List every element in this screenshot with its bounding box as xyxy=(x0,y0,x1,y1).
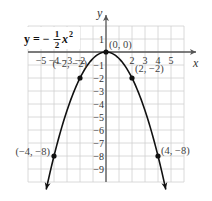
equation-numerator: 1 xyxy=(55,29,60,39)
x-axis-label: x xyxy=(192,56,199,70)
y-tick-label: −3 xyxy=(93,86,104,97)
y-tick-label: −5 xyxy=(93,112,104,123)
point-label: (0, 0) xyxy=(109,39,132,51)
y-tick-label: −6 xyxy=(93,125,104,136)
data-point xyxy=(129,75,134,80)
x-tick-label: 5 xyxy=(169,55,174,66)
x-tick-label: −5 xyxy=(36,55,47,66)
data-point xyxy=(51,153,56,158)
point-label: (−2, −2) xyxy=(52,58,87,70)
equation-lhs: y = − xyxy=(24,32,50,46)
x-tick-label: 2 xyxy=(130,55,135,66)
equation-denominator: 2 xyxy=(55,40,60,50)
curve-arrowheads xyxy=(45,182,167,189)
y-axis-label: y xyxy=(96,6,103,20)
data-point xyxy=(103,49,108,54)
y-tick-label: 1 xyxy=(99,34,104,45)
y-tick-label: −9 xyxy=(93,164,104,175)
point-label: (4, −8) xyxy=(161,145,190,157)
y-tick-label: −4 xyxy=(93,99,104,110)
data-point xyxy=(155,153,160,158)
data-point xyxy=(77,75,82,80)
y-tick-label: −2 xyxy=(93,73,104,84)
equation-exponent: 2 xyxy=(69,30,73,39)
equation-label: y = −12x2 xyxy=(22,27,80,50)
point-label: (2, −2) xyxy=(135,63,164,75)
equation-variable: x xyxy=(61,32,68,46)
y-tick-label: −1 xyxy=(93,60,104,71)
point-label: (−4, −8) xyxy=(15,146,50,158)
parabola-graph: xy −5−4−3−22345 1−1−2−3−4−5−6−7−8−9 (−4,… xyxy=(0,0,212,201)
y-tick-label: −8 xyxy=(93,151,104,162)
y-tick-label: −7 xyxy=(93,138,104,149)
